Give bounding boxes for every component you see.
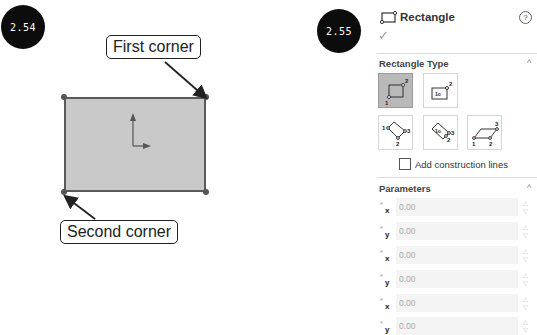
svg-text:1: 1: [382, 125, 386, 131]
y-coordinate-icon: *y: [380, 225, 394, 239]
section-divider: [377, 177, 537, 178]
3-point-center-rectangle-icon: 1o 3 2: [424, 116, 459, 151]
svg-text:3: 3: [407, 128, 411, 134]
corner-rectangle-icon: 2 1: [379, 74, 414, 109]
corner-rectangle-button[interactable]: 2 1: [378, 73, 413, 108]
svg-text:2: 2: [447, 137, 451, 143]
svg-text:2: 2: [405, 78, 409, 84]
svg-text:1: 1: [472, 141, 476, 147]
parameter-row: *x 0.00 △▽: [380, 246, 530, 264]
x-coordinate-icon: *x: [380, 201, 394, 215]
parameter-x-input[interactable]: 0.00: [396, 198, 518, 216]
svg-text:1o: 1o: [435, 128, 441, 134]
parameters-section-title[interactable]: Parameters: [379, 183, 431, 194]
svg-text:2: 2: [449, 81, 453, 87]
parallelogram-icon: 1 2 3: [468, 116, 503, 151]
center-rectangle-button[interactable]: 1o 2: [423, 73, 458, 108]
parameter-row: *y 0.00 △▽: [380, 317, 530, 335]
3-point-corner-rectangle-icon: 1 2 3: [379, 116, 414, 151]
add-construction-lines-option[interactable]: Add construction lines: [399, 158, 508, 170]
panel-title: Rectangle: [400, 11, 455, 23]
first-corner-callout: First corner: [106, 35, 201, 59]
svg-text:2: 2: [396, 141, 400, 147]
3-point-corner-rectangle-button[interactable]: 1 2 3: [378, 115, 413, 150]
parallelogram-button[interactable]: 1 2 3: [467, 115, 502, 150]
spinner-arrows-icon[interactable]: △▽: [523, 271, 528, 287]
figure-number-badge: 2.55: [317, 9, 361, 53]
ok-button[interactable]: ✓: [378, 28, 389, 43]
x-coordinate-icon: *x: [380, 249, 394, 263]
spinner-arrows-icon[interactable]: △▽: [523, 223, 528, 239]
rectangle-type-section-title[interactable]: Rectangle Type: [379, 58, 449, 69]
parameter-x-input[interactable]: 0.00: [396, 294, 518, 312]
parameter-row: *y 0.00 △▽: [380, 270, 530, 288]
spinner-arrows-icon[interactable]: △▽: [523, 199, 528, 215]
svg-text:1: 1: [385, 100, 389, 106]
svg-text:2: 2: [489, 141, 493, 147]
rectangle-tool-icon: [380, 10, 398, 24]
spinner-arrows-icon[interactable]: △▽: [523, 247, 528, 263]
collapse-chevron-icon[interactable]: ^: [527, 58, 531, 68]
x-coordinate-icon: *x: [380, 297, 394, 311]
parameter-y-input[interactable]: 0.00: [396, 317, 518, 335]
rectangle-property-manager: Rectangle ? ✓ Rectangle Type ^ 2 1 1o 2 …: [370, 0, 537, 334]
second-corner-callout: Second corner: [60, 220, 178, 244]
svg-text:3: 3: [451, 130, 455, 136]
spinner-arrows-icon[interactable]: △▽: [523, 295, 528, 311]
parameter-row: *x 0.00 △▽: [380, 198, 530, 216]
center-rectangle-icon: 1o 2: [424, 74, 459, 109]
y-coordinate-icon: *y: [380, 320, 394, 334]
parameter-row: *y 0.00 △▽: [380, 222, 530, 240]
spinner-arrows-icon[interactable]: △▽: [523, 318, 528, 334]
parameter-y-input[interactable]: 0.00: [396, 270, 518, 288]
add-construction-lines-checkbox[interactable]: [399, 158, 411, 170]
collapse-chevron-icon[interactable]: ^: [527, 183, 531, 193]
svg-text:3: 3: [495, 121, 499, 127]
add-construction-lines-label: Add construction lines: [415, 159, 508, 170]
parameter-x-input[interactable]: 0.00: [396, 246, 518, 264]
parameter-row: *x 0.00 △▽: [380, 294, 530, 312]
section-divider: [377, 53, 537, 54]
3-point-center-rectangle-button[interactable]: 1o 3 2: [423, 115, 458, 150]
y-coordinate-icon: *y: [380, 273, 394, 287]
parameter-y-input[interactable]: 0.00: [396, 222, 518, 240]
help-icon[interactable]: ?: [519, 11, 532, 24]
svg-text:1o: 1o: [435, 91, 441, 97]
